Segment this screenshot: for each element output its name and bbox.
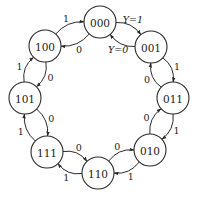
edge-label-110-to-111: 1 bbox=[63, 172, 69, 183]
edge-label-101-to-100: 1 bbox=[17, 61, 23, 72]
state-label: 101 bbox=[15, 93, 35, 105]
edge-label-100-to-101: 0 bbox=[47, 72, 53, 83]
edge-label-110-to-010: 0 bbox=[114, 141, 120, 152]
state-label: 001 bbox=[141, 42, 161, 54]
edge-label-001-to-011: 1 bbox=[174, 61, 180, 72]
edge-100-to-000 bbox=[56, 22, 84, 34]
edge-label-000-to-001: Y=1 bbox=[123, 14, 143, 25]
edge-101-to-100 bbox=[24, 57, 34, 82]
edge-label-011-to-010: 1 bbox=[174, 125, 180, 136]
edge-010-to-110 bbox=[114, 162, 139, 173]
edge-110-to-010 bbox=[109, 150, 134, 161]
edge-label-011-to-001: 0 bbox=[144, 74, 150, 85]
edge-label-111-to-101: 1 bbox=[18, 126, 24, 137]
state-label: 010 bbox=[140, 145, 160, 157]
state-node-010: 010 bbox=[134, 134, 166, 166]
edge-100-to-101 bbox=[36, 62, 46, 87]
edge-110-to-111 bbox=[58, 164, 82, 174]
state-nodes: 000001011010110111101100 bbox=[9, 6, 189, 189]
state-diagram: 000001011010110111101100 Y=1Y=0101010101… bbox=[0, 0, 198, 200]
state-label: 111 bbox=[37, 147, 57, 159]
edge-010-to-011 bbox=[150, 109, 161, 134]
edge-011-to-001 bbox=[151, 63, 162, 87]
state-label: 100 bbox=[35, 41, 55, 53]
state-label: 011 bbox=[163, 93, 183, 105]
edge-label-101-to-111: 0 bbox=[48, 113, 54, 124]
edge-101-to-111 bbox=[37, 109, 48, 136]
edge-111-to-101 bbox=[24, 114, 35, 141]
state-node-100: 100 bbox=[29, 30, 61, 62]
edge-label-111-to-110: 0 bbox=[76, 142, 82, 153]
state-node-001: 001 bbox=[135, 31, 167, 63]
state-label: 000 bbox=[90, 17, 110, 29]
edge-label-000-to-100: 0 bbox=[76, 44, 82, 55]
state-node-111: 111 bbox=[31, 136, 63, 168]
state-label: 110 bbox=[88, 168, 108, 180]
state-node-101: 101 bbox=[9, 82, 41, 114]
state-node-011: 011 bbox=[157, 82, 189, 114]
edge-001-to-011 bbox=[163, 58, 174, 82]
edge-label-100-to-000: 1 bbox=[63, 13, 69, 24]
state-node-000: 000 bbox=[84, 6, 116, 38]
state-node-110: 110 bbox=[82, 157, 114, 189]
edge-label-010-to-011: 0 bbox=[143, 112, 149, 123]
edge-011-to-010 bbox=[162, 114, 173, 139]
edge-label-001-to-000: Y=0 bbox=[108, 44, 128, 55]
edge-label-010-to-110: 1 bbox=[128, 171, 134, 182]
